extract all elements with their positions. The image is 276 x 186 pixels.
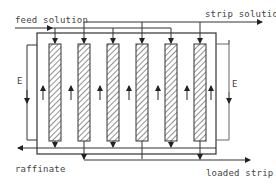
e-left-label: E [17,76,23,86]
feed-solution-label: feed solution [15,15,88,25]
column-1 [49,44,61,141]
loaded-strip-label: loaded strip [206,168,273,178]
strip-solution-label: strip solution [205,9,276,19]
left-recycle-loop [27,45,37,140]
column-2 [78,44,90,141]
right-recycle-loop [216,44,229,140]
column-6 [194,44,206,141]
outer-frame [37,33,216,154]
column-5 [165,44,177,141]
column-4 [136,44,148,141]
columns [49,44,206,141]
upflow-arrows [43,86,211,100]
e-right-label: E [232,79,238,89]
column-3 [107,44,119,141]
raffinate-label: raffinate [15,164,66,174]
extraction-cascade-diagram [0,0,276,186]
